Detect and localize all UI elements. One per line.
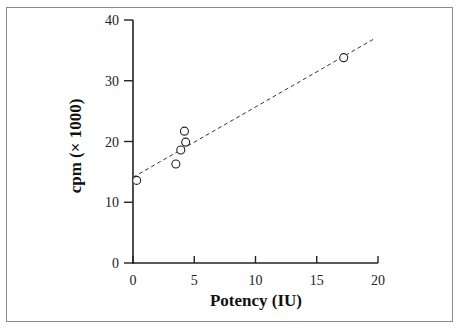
fit-line bbox=[133, 39, 373, 177]
y-tick-label: 0 bbox=[112, 256, 119, 271]
x-tick-label: 20 bbox=[371, 273, 385, 288]
y-tick-label: 40 bbox=[105, 13, 119, 28]
y-axis-ticks: 010203040 bbox=[105, 13, 133, 271]
data-point bbox=[133, 176, 141, 184]
y-tick-label: 20 bbox=[105, 135, 119, 150]
data-point bbox=[340, 54, 348, 62]
y-tick-label: 10 bbox=[105, 195, 119, 210]
x-tick-label: 15 bbox=[310, 273, 324, 288]
data-point bbox=[172, 160, 180, 168]
data-point bbox=[180, 127, 188, 135]
x-axis-title: Potency (IU) bbox=[210, 291, 302, 310]
regression-line bbox=[133, 39, 373, 177]
y-axis-title: cpm (× 1000) bbox=[66, 99, 85, 194]
x-axis-ticks: 05101520 bbox=[130, 256, 386, 288]
data-point bbox=[177, 146, 185, 154]
x-tick-label: 10 bbox=[249, 273, 263, 288]
scatter-chart: 05101520 010203040 Potency (IU) cpm (× 1… bbox=[0, 0, 458, 330]
data-points bbox=[133, 54, 348, 185]
data-point bbox=[182, 138, 190, 146]
x-tick-label: 5 bbox=[191, 273, 198, 288]
x-tick-label: 0 bbox=[130, 273, 137, 288]
y-tick-label: 30 bbox=[105, 74, 119, 89]
